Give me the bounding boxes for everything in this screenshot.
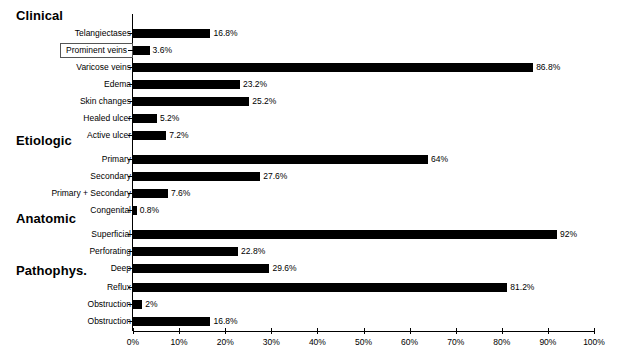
bar <box>133 317 210 326</box>
x-axis-tick <box>410 328 411 334</box>
x-axis-tick <box>317 328 318 334</box>
x-axis-tick-label: 70% <box>447 337 464 347</box>
bar-value-label: 25.2% <box>252 96 276 107</box>
chart-row: Active ulcer7.2% <box>0 128 620 145</box>
bar-value-label: 27.6% <box>263 171 287 182</box>
bar-value-label: 22.8% <box>241 246 265 257</box>
x-axis-tick <box>179 328 180 334</box>
x-axis-tick <box>133 328 134 334</box>
bar-value-label: 2% <box>145 299 157 310</box>
section-heading-pathophys: Pathophys. <box>16 263 87 278</box>
bar <box>133 247 238 256</box>
x-axis-tick-label: 0% <box>127 337 139 347</box>
bar-value-label: 16.8% <box>213 316 237 327</box>
chart-row: Superficial92% <box>0 227 620 244</box>
section-heading-etiologic: Etiologic <box>16 133 72 148</box>
chart-row: Prominent veins3.6% <box>0 43 620 60</box>
category-label: Obstruction <box>88 316 131 327</box>
bar <box>133 264 269 273</box>
bar <box>133 155 428 164</box>
category-label: Edema <box>104 79 131 90</box>
chart-row: Congenital0.8% <box>0 203 620 220</box>
bar <box>133 206 137 215</box>
bar <box>133 29 210 38</box>
bar-value-label: 3.6% <box>153 45 172 56</box>
category-label: Secondary <box>90 171 131 182</box>
category-label: Active ulcer <box>87 130 131 141</box>
bar-value-label: 5.2% <box>160 113 179 124</box>
category-label: Perforating <box>89 246 131 257</box>
bar-value-label: 7.6% <box>171 188 190 199</box>
x-axis-tick-label: 30% <box>263 337 280 347</box>
x-axis-tick-label: 100% <box>583 337 605 347</box>
bar <box>133 46 150 55</box>
chart-row: Reflux81.2% <box>0 280 620 297</box>
bar-value-label: 92% <box>560 229 577 240</box>
bar-value-label: 7.2% <box>169 130 188 141</box>
bar-value-label: 23.2% <box>243 79 267 90</box>
x-axis-tick <box>225 328 226 334</box>
bar <box>133 63 533 72</box>
section-heading-clinical: Clinical <box>16 8 63 23</box>
bar <box>133 189 168 198</box>
chart-row: Primary + Secondary7.6% <box>0 186 620 203</box>
bar <box>133 283 507 292</box>
chart-row: Secondary27.6% <box>0 169 620 186</box>
chart-row: Obstruction16.8% <box>0 314 620 331</box>
chart-row: Skin changes25.2% <box>0 94 620 111</box>
bar-value-label: 16.8% <box>213 28 237 39</box>
chart-row: Telangiectases16.8% <box>0 26 620 43</box>
chart-row: Deep29.6% <box>0 261 620 278</box>
category-label: Primary + Secondary <box>51 188 131 199</box>
x-axis-tick <box>502 328 503 334</box>
bar <box>133 230 557 239</box>
category-label: Skin changes <box>80 96 131 107</box>
x-axis-tick-label: 90% <box>539 337 556 347</box>
category-label: Superficial <box>91 229 131 240</box>
bar-value-label: 0.8% <box>140 205 159 216</box>
section-heading-anatomic: Anatomic <box>16 211 76 226</box>
x-axis-tick <box>548 328 549 334</box>
chart-row: Perforating22.8% <box>0 244 620 261</box>
category-label: Congenital <box>90 205 131 216</box>
chart-row: Varicose veins86.8% <box>0 60 620 77</box>
bar <box>133 131 166 140</box>
bar <box>133 97 249 106</box>
bar <box>133 172 260 181</box>
x-axis-tick-label: 80% <box>493 337 510 347</box>
bar <box>133 300 142 309</box>
category-label: Telangiectases <box>75 28 131 39</box>
x-axis-tick-label: 40% <box>309 337 326 347</box>
bar <box>133 80 240 89</box>
category-label: Varicose veins <box>76 62 131 73</box>
category-label: Primary <box>102 154 131 165</box>
x-axis-tick <box>594 328 595 334</box>
bar-value-label: 64% <box>431 154 448 165</box>
x-axis-tick-label: 20% <box>217 337 234 347</box>
x-axis-tick-label: 60% <box>401 337 418 347</box>
x-axis-tick <box>364 328 365 334</box>
x-axis-tick <box>271 328 272 334</box>
chart-row: Primary64% <box>0 152 620 169</box>
x-axis-tick-label: 10% <box>171 337 188 347</box>
bar-value-label: 86.8% <box>536 62 560 73</box>
bar-chart: ClinicalTelangiectases16.8%Prominent vei… <box>0 0 620 359</box>
category-label: Obstruction <box>88 299 131 310</box>
x-axis-tick-label: 50% <box>355 337 372 347</box>
chart-row: Obstruction2% <box>0 297 620 314</box>
chart-row: Healed ulcer5.2% <box>0 111 620 128</box>
bar-value-label: 81.2% <box>510 282 534 293</box>
category-label: Healed ulcer <box>83 113 131 124</box>
bar <box>133 114 157 123</box>
chart-row: Edema23.2% <box>0 77 620 94</box>
x-axis-tick <box>456 328 457 334</box>
bar-value-label: 29.6% <box>272 263 296 274</box>
category-label-highlighted: Prominent veins <box>60 43 133 58</box>
